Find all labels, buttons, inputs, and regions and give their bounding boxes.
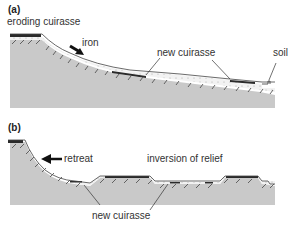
label-eroding-cuirasse: eroding cuirasse [7, 17, 80, 27]
label-new-cuirasse-a: new cuirasse [157, 48, 215, 58]
label-new-cuirasse-b: new cuirasse [92, 211, 150, 221]
label-retreat: retreat [64, 154, 93, 164]
panel-b-tag: (b) [8, 122, 21, 133]
label-iron: iron [82, 38, 99, 48]
diagram-canvas [0, 0, 295, 228]
label-soil: soil [273, 48, 288, 58]
panel-a-tag: (a) [8, 4, 20, 15]
panel-b-cross-section [8, 140, 275, 210]
label-inversion-of-relief: inversion of relief [147, 154, 223, 164]
panel-a-cross-section [10, 34, 276, 108]
